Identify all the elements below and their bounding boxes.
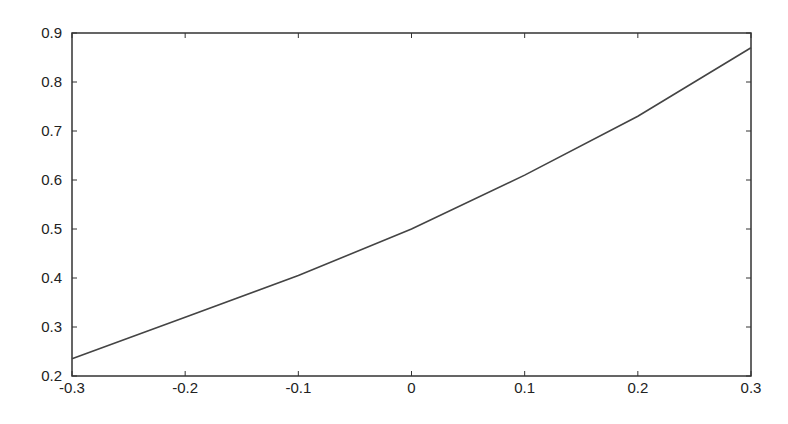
x-tick-label: 0.2: [627, 379, 648, 396]
plot-frame: [72, 33, 751, 376]
y-tick-label: 0.6: [41, 171, 62, 188]
x-tick-label: 0.3: [741, 379, 762, 396]
y-tick-label: 0.5: [41, 220, 62, 237]
y-tick-label: 0.9: [41, 24, 62, 41]
x-tick-label: 0.1: [514, 379, 535, 396]
line-chart: -0.3-0.2-0.100.10.20.30.20.30.40.50.60.7…: [0, 0, 788, 424]
y-tick-label: 0.4: [41, 269, 62, 286]
y-tick-label: 0.2: [41, 367, 62, 384]
x-tick-label: 0: [407, 379, 415, 396]
y-tick-label: 0.7: [41, 122, 62, 139]
y-tick-label: 0.8: [41, 73, 62, 90]
data-line: [72, 48, 751, 359]
x-tick-label: -0.3: [59, 379, 85, 396]
x-tick-label: -0.1: [285, 379, 311, 396]
y-tick-label: 0.3: [41, 318, 62, 335]
x-tick-label: -0.2: [172, 379, 198, 396]
